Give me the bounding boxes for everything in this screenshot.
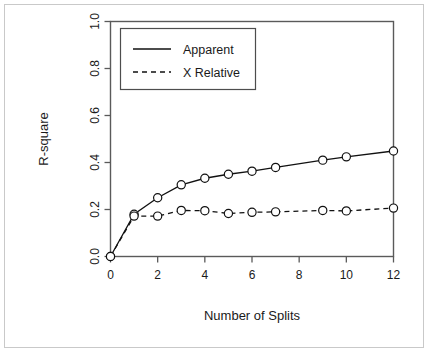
- y-tick-label: 0.0: [88, 248, 102, 265]
- data-point-apparent: [319, 156, 327, 164]
- data-point-x-relative: [130, 212, 138, 220]
- x-tick-label: 0: [107, 268, 114, 282]
- y-axis-title: R-square: [36, 112, 51, 165]
- data-point-apparent: [248, 167, 256, 175]
- data-point-apparent: [201, 174, 209, 182]
- data-series-layer: [106, 147, 397, 261]
- x-tick-label: 6: [249, 268, 256, 282]
- y-tick-label: 0.4: [88, 154, 102, 171]
- y-tick-label: 0.2: [88, 201, 102, 218]
- y-tick-label: 0.6: [88, 107, 102, 124]
- data-point-x-relative: [224, 209, 232, 217]
- data-point-x-relative: [106, 252, 114, 260]
- data-point-x-relative: [177, 206, 185, 214]
- data-point-apparent: [342, 153, 350, 161]
- x-tick-label: 8: [296, 268, 303, 282]
- chart-figure: 0.00.20.40.60.81.0 024681012 R-square Nu…: [0, 0, 429, 353]
- x-tick-label: 12: [387, 268, 401, 282]
- legend-label-apparent: Apparent: [183, 43, 234, 57]
- data-point-apparent: [271, 163, 279, 171]
- data-point-x-relative: [389, 204, 397, 212]
- rsquare-line-chart: 0.00.20.40.60.81.0 024681012 R-square Nu…: [0, 0, 429, 353]
- data-point-x-relative: [201, 207, 209, 215]
- chart-legend: Apparent X Relative: [121, 29, 256, 90]
- legend-label-x-relative: X Relative: [183, 66, 240, 80]
- data-point-x-relative: [342, 207, 350, 215]
- x-axis-tick-labels: 024681012: [107, 268, 400, 282]
- data-point-apparent: [389, 147, 397, 155]
- data-point-x-relative: [271, 208, 279, 216]
- x-tick-label: 2: [154, 268, 161, 282]
- legend-box: [121, 29, 256, 90]
- y-axis-ticks: [105, 22, 111, 257]
- x-axis-ticks: [111, 257, 394, 263]
- y-tick-label: 0.8: [88, 60, 102, 77]
- data-point-apparent: [177, 181, 185, 189]
- data-point-x-relative: [319, 206, 327, 214]
- data-point-apparent: [154, 194, 162, 202]
- y-tick-label: 1.0: [88, 13, 102, 30]
- x-tick-label: 10: [340, 268, 354, 282]
- y-axis-tick-labels: 0.00.20.40.60.81.0: [88, 13, 102, 265]
- data-point-x-relative: [248, 208, 256, 216]
- x-axis-title: Number of Splits: [204, 308, 301, 323]
- data-point-x-relative: [154, 212, 162, 220]
- data-point-apparent: [224, 170, 232, 178]
- x-tick-label: 4: [201, 268, 208, 282]
